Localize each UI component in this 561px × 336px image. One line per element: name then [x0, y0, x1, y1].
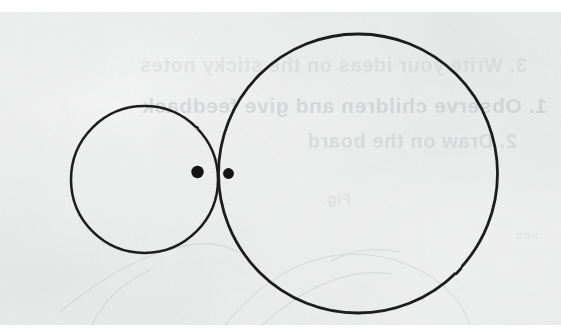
- paper-surface: [0, 12, 561, 325]
- scan-margin-bottom: [0, 325, 561, 336]
- scan-margin-top: [0, 0, 561, 12]
- scanned-page: 3. Write your ideas on the sticky notes …: [0, 0, 561, 336]
- paper-grain-texture: [0, 12, 561, 325]
